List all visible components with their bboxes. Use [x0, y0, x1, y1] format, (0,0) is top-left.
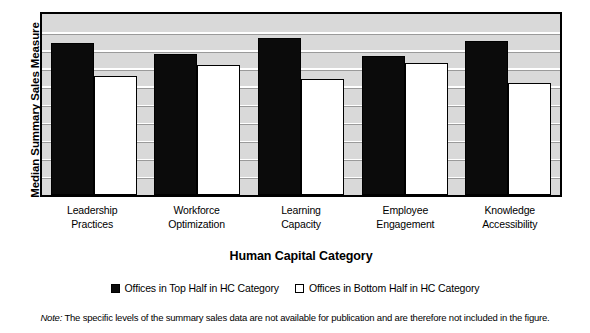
- bar-bottom-half[interactable]: [301, 79, 344, 195]
- x-axis-tick-label: EmployeeEngagement: [356, 203, 455, 241]
- x-axis-tick-labels: LeadershipPracticesWorkforceOptimization…: [40, 203, 562, 241]
- legend-label: Offices in Top Half in HC Category: [125, 282, 279, 294]
- filled-square-icon: [111, 284, 120, 293]
- x-axis-title: Human Capital Category: [40, 249, 562, 263]
- bar-group: [148, 14, 246, 195]
- x-axis-tick-label-line: Capacity: [251, 217, 350, 231]
- bar-group: [252, 14, 350, 195]
- legend-label: Offices in Bottom Half in HC Category: [309, 282, 480, 294]
- x-axis-tick-label: WorkforceOptimization: [147, 203, 246, 241]
- legend-entry[interactable]: Offices in Bottom Half in HC Category: [295, 282, 480, 294]
- x-axis-tick-label-line: Accessibility: [460, 217, 559, 231]
- open-square-icon: [295, 284, 304, 293]
- figure-note-label: Note:: [40, 312, 62, 323]
- x-axis-tick-label: LearningCapacity: [251, 203, 350, 241]
- bar-group: [459, 14, 557, 195]
- legend-entry[interactable]: Offices in Top Half in HC Category: [111, 282, 279, 294]
- bar-top-half[interactable]: [362, 56, 405, 195]
- figure-note: Note: The specific levels of the summary…: [0, 312, 590, 323]
- x-axis-tick-label-line: Engagement: [356, 217, 455, 231]
- figure-note-text: The specific levels of the summary sales…: [62, 312, 549, 323]
- bar-bottom-half[interactable]: [405, 63, 448, 195]
- x-axis-tick-label-line: Workforce: [147, 203, 246, 217]
- bar-bottom-half[interactable]: [508, 83, 551, 195]
- bar-bottom-half[interactable]: [94, 76, 137, 195]
- bar-top-half[interactable]: [258, 38, 301, 195]
- chart-legend: Offices in Top Half in HC CategoryOffice…: [0, 282, 590, 294]
- x-axis-tick-label-line: Learning: [251, 203, 350, 217]
- bar-top-half[interactable]: [154, 54, 197, 195]
- x-axis-tick-label: LeadershipPractices: [43, 203, 142, 241]
- plot-area: [40, 12, 562, 197]
- x-axis-tick-label-line: Practices: [43, 217, 142, 231]
- x-axis-tick-label-line: Knowledge: [460, 203, 559, 217]
- bar-bottom-half[interactable]: [197, 65, 240, 195]
- x-axis-tick-label-line: Employee: [356, 203, 455, 217]
- bar-group: [355, 14, 453, 195]
- bar-group: [45, 14, 143, 195]
- bar-top-half[interactable]: [465, 41, 508, 195]
- x-axis-tick-label-line: Leadership: [43, 203, 142, 217]
- bars-layer: [42, 14, 560, 195]
- bar-top-half[interactable]: [51, 43, 94, 195]
- figure-container: Median Summary Sales Measure LeadershipP…: [0, 0, 590, 333]
- x-axis-tick-label-line: Optimization: [147, 217, 246, 231]
- x-axis-tick-label: KnowledgeAccessibility: [460, 203, 559, 241]
